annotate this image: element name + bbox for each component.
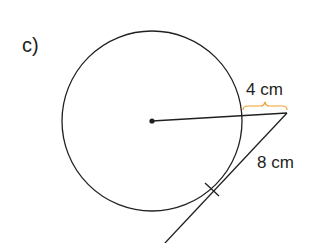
circle-tangent-diagram	[0, 0, 311, 243]
outside-segment-brace	[243, 102, 287, 110]
part-label: c)	[22, 34, 39, 57]
tangent-length-label: 8 cm	[257, 153, 294, 173]
outside-segment-length-label: 4 cm	[246, 80, 283, 100]
tangent-line	[165, 113, 287, 243]
secant-line-center-to-external-point	[152, 113, 287, 121]
center-point	[149, 118, 154, 123]
tangent-point-tick	[205, 183, 219, 196]
